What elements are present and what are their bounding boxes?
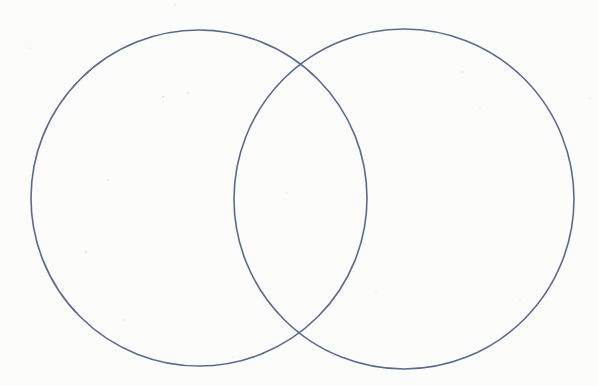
- venn-diagram: [0, 0, 598, 386]
- venn-diagram-canvas: [0, 0, 598, 386]
- venn-circle-right: [234, 29, 574, 369]
- venn-circle-left: [31, 30, 367, 366]
